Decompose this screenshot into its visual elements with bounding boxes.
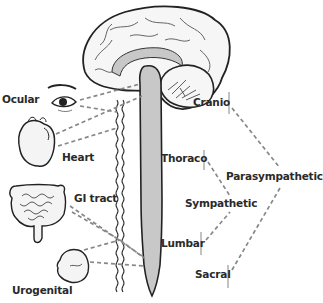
eye-icon xyxy=(48,85,76,111)
label-parasympathetic: Parasympathetic xyxy=(226,170,323,182)
gi-tract-icon xyxy=(10,185,66,243)
region-brackets xyxy=(201,92,229,288)
label-lumbar: Lumbar xyxy=(161,237,205,249)
label-heart: Heart xyxy=(62,151,94,163)
spinal-cord-illustration xyxy=(140,66,162,296)
label-thoraco: Thoraco xyxy=(161,152,207,164)
label-cranio: Cranio xyxy=(193,96,230,108)
label-urogenital: Urogenital xyxy=(12,284,72,296)
label-sacral: Sacral xyxy=(195,268,231,280)
sympathetic-chain xyxy=(116,100,124,292)
label-gi-tract: GI tract xyxy=(74,192,117,204)
label-sympathetic: Sympathetic xyxy=(185,197,257,209)
heart-icon xyxy=(19,117,55,166)
urogenital-icon xyxy=(57,249,88,282)
label-ocular: Ocular xyxy=(2,93,39,105)
